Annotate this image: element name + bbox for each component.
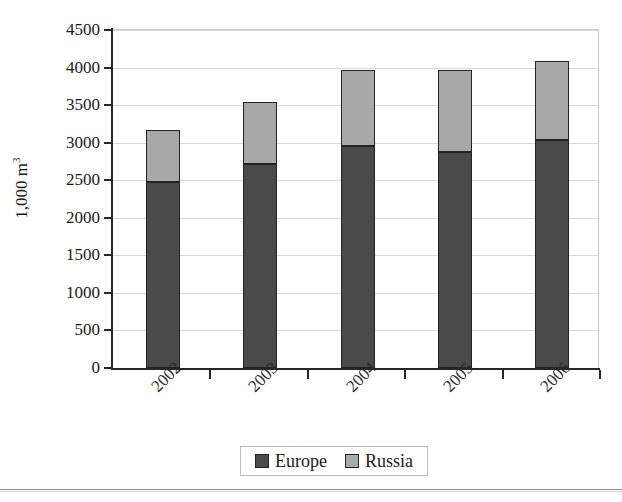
bar-segment-europe[interactable] xyxy=(243,164,277,368)
legend-label: Europe xyxy=(275,452,327,470)
bar-segment-europe[interactable] xyxy=(438,152,472,368)
bar-segment-russia[interactable] xyxy=(243,102,277,164)
bar-segment-europe[interactable] xyxy=(535,140,569,368)
bar-series-group xyxy=(0,0,622,502)
bar-segment-europe[interactable] xyxy=(146,182,180,368)
bar-stack-2004[interactable] xyxy=(341,70,375,368)
page-divider-rule-shadow xyxy=(0,491,622,492)
bar-stack-2003[interactable] xyxy=(243,102,277,368)
bar-stack-2002[interactable] xyxy=(146,130,180,368)
legend-item-europe[interactable]: Europe xyxy=(255,452,327,470)
russia-swatch-icon xyxy=(345,454,359,468)
bar-stack-2006[interactable] xyxy=(535,61,569,368)
bar-segment-russia[interactable] xyxy=(535,61,569,140)
europe-swatch-icon xyxy=(255,454,269,468)
bar-segment-russia[interactable] xyxy=(146,130,180,182)
legend-item-russia[interactable]: Russia xyxy=(345,452,413,470)
bar-segment-europe[interactable] xyxy=(341,146,375,368)
bar-segment-russia[interactable] xyxy=(438,70,472,152)
chart-legend: EuropeRussia xyxy=(240,446,428,476)
stacked-bar-chart-figure: 050010001500200025003000350040004500 1,0… xyxy=(0,0,622,502)
legend-label: Russia xyxy=(365,452,413,470)
page-divider-rule xyxy=(0,489,622,490)
bar-stack-2005[interactable] xyxy=(438,70,472,368)
bar-segment-russia[interactable] xyxy=(341,70,375,145)
